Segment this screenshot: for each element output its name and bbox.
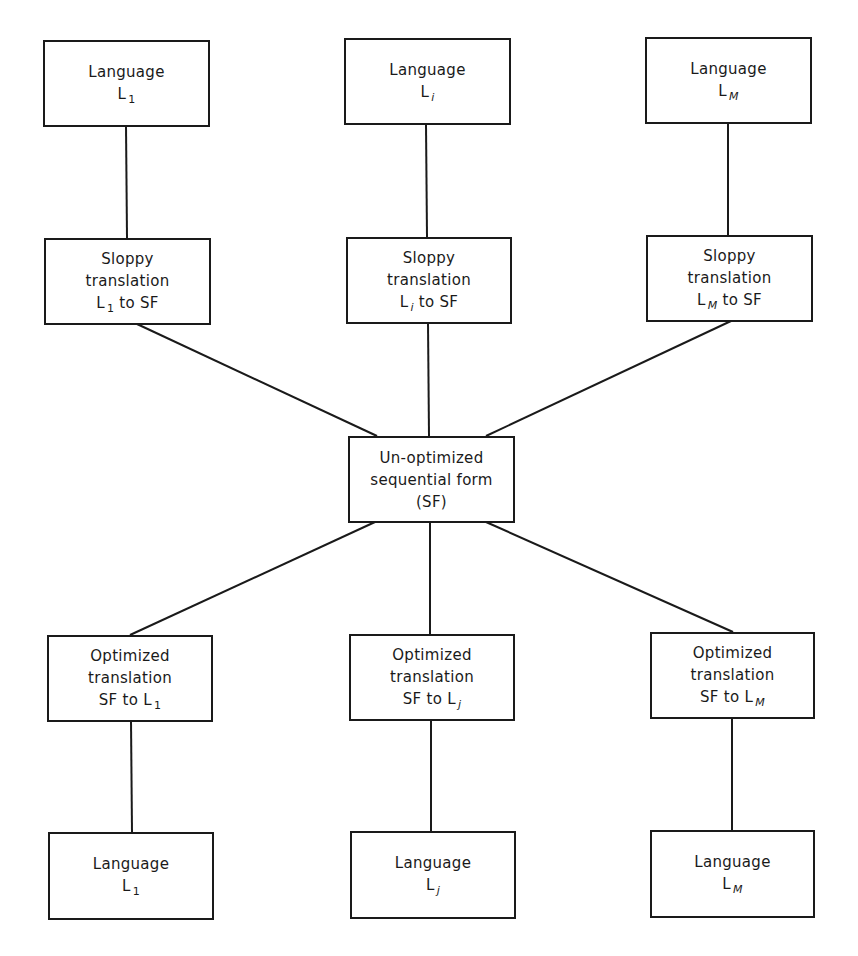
- source-language-M: Language LM: [645, 37, 812, 124]
- box-label: Sloppy: [703, 245, 756, 267]
- target-language-1: Language L1: [48, 832, 214, 920]
- box-label: translation: [88, 667, 172, 689]
- language-symbol: LM: [718, 80, 738, 104]
- box-label: L1 to SF: [96, 292, 159, 316]
- box-label: SF to L1: [99, 689, 162, 713]
- edge-sourcei-sloppyi: [426, 125, 427, 237]
- box-label: Language: [93, 853, 169, 875]
- box-label: translation: [86, 270, 170, 292]
- box-label: Language: [690, 58, 766, 80]
- box-label: sequential form: [370, 469, 492, 491]
- sloppy-translation-i: Sloppy translation Li to SF: [346, 237, 512, 324]
- target-language-j: Language Lj: [350, 831, 516, 919]
- target-language-M: Language LM: [650, 830, 815, 918]
- optimized-translation-1: Optimized translation SF to L1: [47, 635, 213, 722]
- box-label: Language: [694, 851, 770, 873]
- language-symbol: L1: [122, 875, 140, 899]
- box-label: Sloppy: [101, 248, 154, 270]
- box-label: Li to SF: [400, 291, 459, 315]
- edge-opt1-target1: [131, 721, 132, 832]
- source-language-1: Language L1: [43, 40, 210, 127]
- box-label: SF to Lj: [403, 688, 462, 712]
- box-label: Language: [88, 61, 164, 83]
- edge-source1-sloppy1: [126, 126, 127, 238]
- box-label: translation: [387, 269, 471, 291]
- box-label: Language: [395, 852, 471, 874]
- optimized-translation-M: Optimized translation SF to LM: [650, 632, 815, 719]
- box-label: Sloppy: [403, 247, 456, 269]
- edge-sloppyi-center: [428, 323, 429, 436]
- edge-center-optM: [486, 522, 733, 632]
- box-label: LM to SF: [697, 289, 762, 313]
- box-label: (SF): [416, 491, 447, 513]
- source-language-i: Language Li: [344, 38, 511, 125]
- sloppy-translation-M: Sloppy translation LM to SF: [646, 235, 813, 322]
- sequential-form-box: Un-optimized sequential form (SF): [348, 436, 515, 523]
- edge-sloppyM-center: [486, 321, 731, 436]
- box-label: translation: [688, 267, 772, 289]
- box-label: Optimized: [693, 642, 772, 664]
- box-label: translation: [390, 666, 474, 688]
- sloppy-translation-1: Sloppy translation L1 to SF: [44, 238, 211, 325]
- box-label: Optimized: [90, 645, 169, 667]
- box-label: Language: [389, 59, 465, 81]
- box-label: Optimized: [392, 644, 471, 666]
- box-label: Un-optimized: [380, 447, 484, 469]
- language-symbol: L1: [118, 83, 136, 107]
- edge-sloppy1-center: [137, 324, 377, 436]
- language-symbol: Li: [420, 81, 434, 105]
- language-symbol: Lj: [426, 874, 440, 898]
- box-label: SF to LM: [700, 686, 765, 710]
- edge-center-opt1: [130, 522, 375, 635]
- box-label: translation: [691, 664, 775, 686]
- optimized-translation-j: Optimized translation SF to Lj: [349, 634, 515, 721]
- language-symbol: LM: [722, 873, 742, 897]
